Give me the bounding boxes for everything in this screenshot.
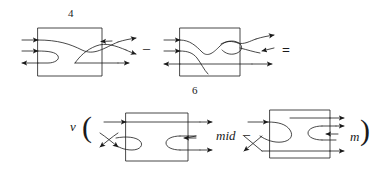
diagram-canvas xyxy=(0,0,374,183)
tangle-3-group xyxy=(100,113,212,161)
tangle-2-strand-down xyxy=(180,51,208,74)
tangle-2-strand-hump-b xyxy=(238,39,256,44)
tangle-1-group xyxy=(22,28,136,76)
label-m: m xyxy=(350,130,359,143)
tangle-1-strand-c-exit xyxy=(126,50,136,54)
close-paren: ) xyxy=(360,115,370,145)
equals-sign: = xyxy=(282,44,290,58)
tangle-4-right-loop xyxy=(308,126,322,140)
label-mid: mid xyxy=(216,129,236,142)
tangle-1-strand-a xyxy=(38,40,118,52)
open-paren: ( xyxy=(82,112,92,142)
tangle-1-strand-b-uturn xyxy=(38,51,58,63)
tangle-3-box xyxy=(126,113,188,161)
tangle-2-strand-exit-top xyxy=(256,35,274,39)
label-six: 6 xyxy=(192,85,198,96)
tangle-1-strand-c xyxy=(75,44,126,63)
tangle-2-group xyxy=(164,28,274,76)
tangle-1-in-right xyxy=(101,41,112,42)
label-v: v xyxy=(70,120,76,133)
tangle-2-in-right xyxy=(262,48,274,51)
minus-top: – xyxy=(143,42,150,56)
label-four: 4 xyxy=(68,8,74,19)
tangle-4-group xyxy=(244,110,344,158)
tangle-3-left-loop xyxy=(116,137,142,150)
tangle-1-strand-a-exit xyxy=(118,38,136,42)
minus-bottom: – xyxy=(243,128,250,142)
tangle-3-right-loop xyxy=(166,136,180,150)
tangle-diagram-figure: 4 – = 6 v ( mid – m ) xyxy=(0,0,374,183)
tangle-2-cross-a xyxy=(240,48,260,53)
tangle-4-strand-loop xyxy=(260,122,292,142)
